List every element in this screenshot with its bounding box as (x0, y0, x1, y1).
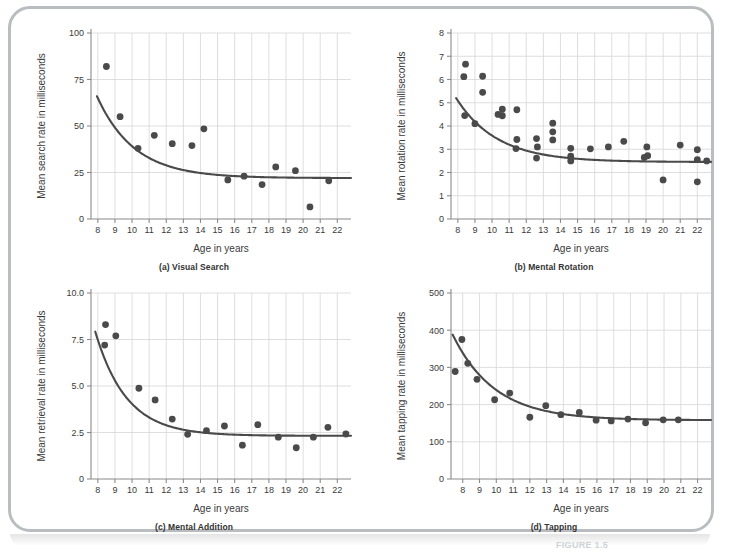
chart-mental-rotation: 0123456788910111213141516171819202122Age… (389, 23, 719, 261)
svg-text:16: 16 (230, 485, 240, 495)
svg-text:8: 8 (460, 485, 465, 495)
svg-text:19: 19 (281, 485, 291, 495)
svg-text:3: 3 (439, 145, 444, 155)
svg-text:100: 100 (69, 28, 84, 38)
chart-visual-search: 02550751008910111213141516171819202122Ag… (29, 23, 359, 261)
svg-text:Mean tapping rate in milliseco: Mean tapping rate in milliseconds (396, 312, 407, 460)
svg-text:12: 12 (525, 485, 535, 495)
chart-tapping: 0100200300400500891011121314151617181920… (389, 283, 719, 521)
chart-mental-addition: 02.55.07.510.089101112131415161718192021… (29, 283, 359, 521)
panel-caption-b: (b) Mental Rotation (389, 262, 719, 272)
svg-text:Age in years: Age in years (193, 243, 249, 254)
svg-text:5.0: 5.0 (71, 381, 84, 391)
svg-text:17: 17 (247, 485, 257, 495)
svg-text:21: 21 (315, 225, 325, 235)
svg-text:18: 18 (624, 225, 634, 235)
svg-text:22: 22 (332, 485, 342, 495)
svg-text:13: 13 (542, 485, 552, 495)
svg-text:22: 22 (693, 485, 703, 495)
svg-text:15: 15 (213, 225, 223, 235)
svg-text:50: 50 (74, 121, 84, 131)
svg-text:6: 6 (439, 75, 444, 85)
svg-text:13: 13 (178, 485, 188, 495)
svg-text:14: 14 (555, 225, 565, 235)
svg-text:13: 13 (538, 225, 548, 235)
svg-text:200: 200 (429, 400, 444, 410)
svg-text:Age in years: Age in years (553, 243, 609, 254)
svg-text:25: 25 (74, 168, 84, 178)
svg-text:19: 19 (641, 225, 651, 235)
svg-text:15: 15 (575, 485, 585, 495)
svg-text:18: 18 (625, 485, 635, 495)
svg-text:8: 8 (95, 485, 100, 495)
figure-number-label: FIGURE 1.5 (556, 540, 608, 550)
svg-text:16: 16 (592, 485, 602, 495)
svg-text:500: 500 (429, 288, 444, 298)
svg-text:Mean rotation rate in millisec: Mean rotation rate in milliseconds (396, 52, 407, 201)
svg-text:14: 14 (195, 485, 205, 495)
figure-frame: 02550751008910111213141516171819202122Ag… (8, 6, 714, 532)
svg-text:400: 400 (429, 326, 444, 336)
svg-text:100: 100 (429, 437, 444, 447)
svg-text:9: 9 (112, 485, 117, 495)
svg-text:8: 8 (95, 225, 100, 235)
svg-text:11: 11 (144, 485, 153, 495)
svg-text:21: 21 (676, 485, 686, 495)
svg-text:4: 4 (439, 121, 444, 131)
svg-text:Mean retrieval rate in millise: Mean retrieval rate in milliseconds (36, 310, 47, 461)
svg-text:20: 20 (298, 485, 308, 495)
svg-text:0: 0 (439, 214, 444, 224)
panel-tapping: 0100200300400500891011121314151617181920… (389, 283, 719, 532)
svg-text:10.0: 10.0 (66, 288, 84, 298)
svg-text:16: 16 (590, 225, 600, 235)
svg-text:18: 18 (264, 225, 274, 235)
svg-text:12: 12 (521, 225, 531, 235)
svg-text:12: 12 (161, 225, 171, 235)
panel-mental-addition: 02.55.07.510.089101112131415161718192021… (29, 283, 359, 532)
svg-text:9: 9 (472, 225, 477, 235)
svg-text:5: 5 (439, 98, 444, 108)
panel-visual-search: 02550751008910111213141516171819202122Ag… (29, 23, 359, 272)
panel-caption-c: (c) Mental Addition (29, 522, 359, 532)
svg-text:7.5: 7.5 (71, 335, 84, 345)
svg-text:22: 22 (692, 225, 702, 235)
svg-text:21: 21 (675, 225, 685, 235)
svg-text:20: 20 (658, 225, 668, 235)
svg-text:20: 20 (659, 485, 669, 495)
svg-text:17: 17 (247, 225, 257, 235)
svg-text:11: 11 (508, 485, 517, 495)
svg-text:10: 10 (127, 225, 137, 235)
svg-text:22: 22 (332, 225, 342, 235)
svg-text:15: 15 (213, 485, 223, 495)
svg-text:10: 10 (491, 485, 501, 495)
svg-text:18: 18 (264, 485, 274, 495)
svg-text:2: 2 (439, 168, 444, 178)
svg-text:8: 8 (439, 28, 444, 38)
svg-text:Age in years: Age in years (193, 503, 249, 514)
svg-text:Mean search rate in millisecon: Mean search rate in milliseconds (36, 53, 47, 199)
svg-text:7: 7 (439, 52, 444, 62)
svg-text:19: 19 (281, 225, 291, 235)
svg-text:11: 11 (504, 225, 513, 235)
svg-text:9: 9 (112, 225, 117, 235)
svg-text:75: 75 (74, 75, 84, 85)
svg-text:0: 0 (79, 214, 84, 224)
panel-mental-rotation: 0123456788910111213141516171819202122Age… (389, 23, 719, 272)
panel-caption-d: (d) Tapping (389, 522, 719, 532)
panel-caption-a: (a) Visual Search (29, 262, 359, 272)
svg-text:20: 20 (298, 225, 308, 235)
svg-text:1: 1 (439, 191, 444, 201)
svg-text:300: 300 (429, 363, 444, 373)
svg-text:15: 15 (573, 225, 583, 235)
svg-text:0: 0 (439, 474, 444, 484)
svg-text:14: 14 (195, 225, 205, 235)
svg-text:12: 12 (161, 485, 171, 495)
svg-text:0: 0 (79, 474, 84, 484)
svg-text:17: 17 (609, 485, 619, 495)
svg-text:Age in years: Age in years (553, 503, 609, 514)
svg-text:2.5: 2.5 (71, 428, 84, 438)
svg-text:16: 16 (230, 225, 240, 235)
svg-text:13: 13 (178, 225, 188, 235)
svg-text:17: 17 (607, 225, 617, 235)
svg-text:14: 14 (558, 485, 568, 495)
